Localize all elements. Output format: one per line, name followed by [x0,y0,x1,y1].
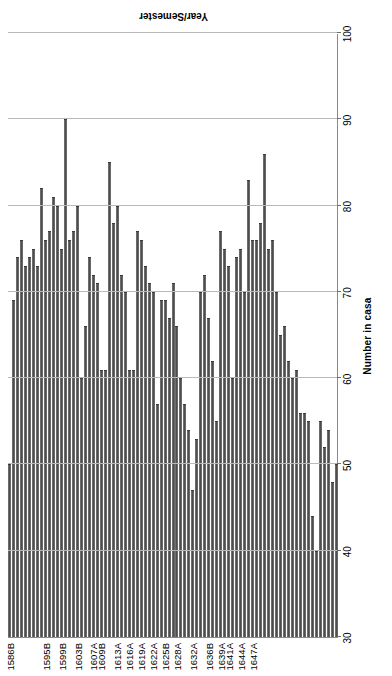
bar[interactable] [140,240,143,637]
bar[interactable] [104,370,107,637]
bar[interactable] [335,464,338,637]
bar[interactable] [168,318,171,637]
bar[interactable] [307,421,310,637]
bar[interactable] [40,188,43,637]
bar[interactable] [28,257,31,637]
bar[interactable] [215,421,218,637]
value-axis-tick-label: 30 [342,632,354,643]
bar[interactable] [132,370,135,637]
bar-row [207,34,210,637]
bar[interactable] [160,301,163,638]
bar[interactable] [32,249,35,637]
bar[interactable] [259,223,262,637]
bar[interactable] [56,206,59,637]
bar[interactable] [183,404,186,637]
bar[interactable] [231,378,234,637]
bar[interactable] [52,197,55,637]
bar[interactable] [287,361,290,637]
bar[interactable] [271,240,274,637]
bar[interactable] [44,240,47,637]
bar[interactable] [112,223,115,637]
bar[interactable] [267,249,270,637]
bar[interactable] [172,283,175,637]
bar-row [307,34,310,637]
bar[interactable] [211,361,214,637]
bar[interactable] [36,266,39,637]
value-axis-tick-label: 100 [342,26,354,43]
bar[interactable] [223,249,226,637]
bar[interactable] [48,231,51,637]
bar[interactable] [323,447,326,637]
bar[interactable] [60,249,63,637]
bar-row [271,34,274,637]
bar[interactable] [108,162,111,637]
bar-row [179,34,182,637]
bar[interactable] [80,378,83,637]
value-axis-tick-label: 60 [342,374,354,385]
bar[interactable] [207,318,210,637]
bar[interactable] [255,240,258,637]
bar[interactable] [219,231,222,637]
bar-row [203,34,206,637]
bar[interactable] [88,257,91,637]
bar[interactable] [72,231,75,637]
category-axis-tick-label: 1632A [187,643,198,670]
category-axis-tick-label: 1595B [40,643,51,670]
bar[interactable] [12,301,15,638]
bar[interactable] [24,266,27,637]
bar[interactable] [263,154,266,637]
bar[interactable] [116,206,119,637]
bar[interactable] [128,370,131,637]
bar[interactable] [279,335,282,637]
bar[interactable] [195,439,198,637]
bar[interactable] [175,326,178,637]
bar-row [136,34,139,637]
bar[interactable] [92,275,95,637]
category-axis-tick-label: 1644A [235,643,246,670]
bar[interactable] [227,266,230,637]
bar[interactable] [235,257,238,637]
bar[interactable] [120,275,123,637]
category-axis-tick-label: 1622A [148,643,159,670]
bar-row [195,34,198,637]
bar[interactable] [76,206,79,637]
bar[interactable] [239,249,242,637]
bar[interactable] [311,516,314,637]
bar[interactable] [144,266,147,637]
bar[interactable] [283,326,286,637]
bar[interactable] [203,275,206,637]
bar[interactable] [68,240,71,637]
bar[interactable] [20,240,23,637]
bar[interactable] [148,283,151,637]
bar[interactable] [247,180,250,637]
bar-row [231,34,234,637]
bar[interactable] [331,482,334,637]
bar[interactable] [100,370,103,637]
bar[interactable] [327,430,330,637]
value-axis-tick-label: 90 [342,115,354,126]
bar[interactable] [16,257,19,637]
gridline [8,205,337,206]
bar-row [327,34,330,637]
bar[interactable] [299,413,302,637]
bar[interactable] [164,301,167,638]
bar[interactable] [319,421,322,637]
bar[interactable] [136,231,139,637]
bar[interactable] [84,326,87,637]
bar[interactable] [8,464,11,637]
bar-row [116,34,119,637]
bar-row [44,34,47,637]
bar-row [215,34,218,637]
bar[interactable] [179,378,182,637]
bar[interactable] [96,283,99,637]
bar-row [132,34,135,637]
bar[interactable] [191,490,194,637]
axis-tick [337,205,341,206]
bar[interactable] [291,378,294,637]
bar[interactable] [187,430,190,637]
bar[interactable] [156,404,159,637]
bar[interactable] [315,551,318,637]
bar[interactable] [303,413,306,637]
bar[interactable] [251,240,254,637]
bar[interactable] [295,370,298,637]
